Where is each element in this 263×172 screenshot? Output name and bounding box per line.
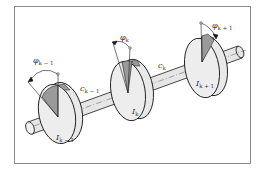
label-c-k-minus-1: ck − 1: [80, 84, 99, 94]
label-phi-k: φk: [120, 33, 130, 43]
label-c-k: ck: [158, 61, 166, 71]
shaft-diagram: φk − 1 φk φk + 1 ck − 1 ck Ik − 1 Ik Ik …: [0, 0, 263, 172]
disk-k-plus-1: [180, 34, 232, 101]
label-phi-k-minus-1: φk − 1: [33, 56, 54, 66]
label-phi-k-plus-1: φk + 1: [212, 21, 233, 31]
